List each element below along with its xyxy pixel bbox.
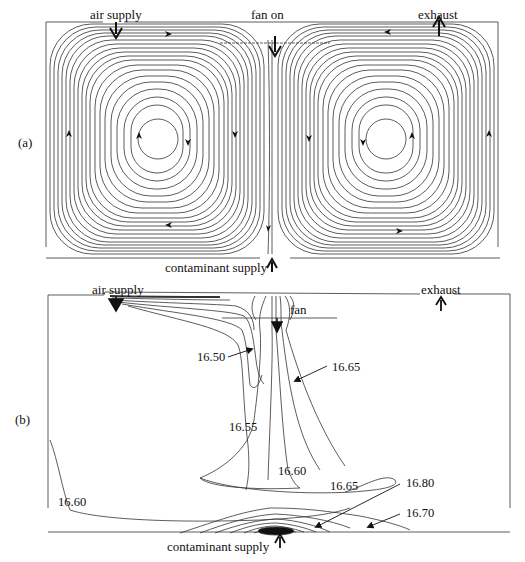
contaminant-source-blob <box>258 527 294 535</box>
flow-arrow-down-icon <box>232 131 238 138</box>
flow-arrow-left-icon <box>165 222 172 228</box>
panel-b-exhaust-label: exhaust <box>421 283 461 296</box>
contour-label-16-55: 16.55 <box>229 421 257 434</box>
leader-16-70 <box>368 514 400 527</box>
exhaust-arrow-icon <box>436 297 446 311</box>
panel-a-fan-label: fan on <box>251 8 284 21</box>
contour-label-16-65: 16.65 <box>332 361 360 374</box>
leader-16-50 <box>228 349 252 357</box>
panel-b-contaminant-label: contaminant supply <box>167 540 269 553</box>
supply-plume-contours <box>110 296 264 490</box>
contaminant-arrow-icon <box>275 534 285 548</box>
flow-arrow-right-icon <box>396 228 403 234</box>
contour-label-16-60-left: 16.60 <box>58 496 86 509</box>
panel-a-tag: (a) <box>18 136 32 149</box>
fan-arrow-icon <box>269 36 281 56</box>
fan-arrow-icon <box>272 318 282 332</box>
contour-label-16-65-lower: 16.65 <box>330 480 358 493</box>
fan-jet-contours <box>200 296 345 489</box>
contour-label-16-80: 16.80 <box>406 477 434 490</box>
contour-label-16-70: 16.70 <box>406 507 434 520</box>
flow-arrow-up-icon <box>136 132 142 139</box>
panel-a-air-supply-label: air supply <box>90 8 142 21</box>
contour-label-16-50: 16.50 <box>197 351 225 364</box>
contour-label-16-60-center: 16.60 <box>278 465 306 478</box>
air-supply-arrow-icon <box>109 296 123 311</box>
right-vortex-streamlines <box>278 24 494 254</box>
figure-canvas <box>0 0 525 562</box>
panel-b-air-supply-label: air supply <box>92 283 144 296</box>
panel-b-tag: (b) <box>15 413 30 426</box>
flow-arrow-down-icon <box>360 139 366 146</box>
flow-arrow-up-icon <box>409 132 415 139</box>
panel-a <box>46 22 500 258</box>
left-vortex-streamlines <box>50 24 264 254</box>
contaminant-arrow-icon <box>267 259 277 272</box>
panel-b-fan-label: fan <box>290 303 307 316</box>
flow-arrow-down-icon <box>306 135 312 142</box>
flow-arrow-up-icon <box>486 130 492 137</box>
panel-a-contaminant-label: contaminant supply <box>165 261 267 274</box>
flow-arrow-up-icon <box>66 130 72 137</box>
panel-b-arrows <box>109 296 446 548</box>
panel-a-exhaust-label: exhaust <box>418 8 458 21</box>
